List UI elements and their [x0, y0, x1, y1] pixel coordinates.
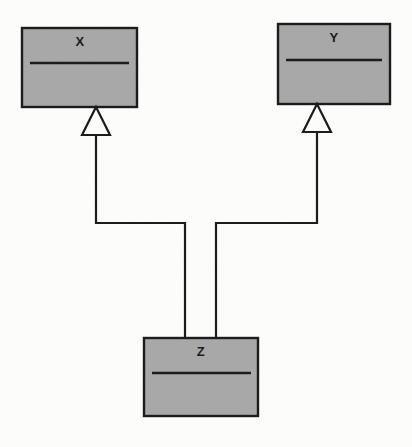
generalization-edge-z-to-y[interactable] — [216, 132, 317, 338]
uml-class-diagram: X Y Z — [0, 0, 412, 447]
generalization-edge-z-to-x[interactable] — [96, 135, 185, 338]
class-box-y[interactable] — [278, 24, 390, 104]
inheritance-triangle-icon-y — [303, 104, 331, 132]
diagram-canvas-svg — [0, 0, 412, 447]
class-box-y-rect — [278, 24, 390, 104]
class-box-x-rect — [22, 28, 137, 107]
class-box-z-rect — [144, 338, 258, 416]
class-box-x[interactable] — [22, 28, 137, 107]
class-box-z[interactable] — [144, 338, 258, 416]
inheritance-triangle-icon-x — [82, 107, 110, 135]
